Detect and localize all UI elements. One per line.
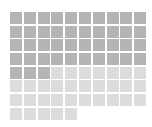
waffle-chart bbox=[10, 12, 146, 120]
waffle-cell-filled bbox=[65, 12, 77, 24]
waffle-cell-remaining bbox=[38, 108, 50, 120]
waffle-cell-remaining bbox=[10, 108, 22, 120]
waffle-cell-remaining bbox=[51, 94, 63, 106]
waffle-cell-filled bbox=[51, 53, 63, 65]
waffle-cell-remaining bbox=[120, 80, 132, 92]
waffle-cell-filled bbox=[10, 12, 22, 24]
waffle-cell-remaining bbox=[134, 94, 146, 106]
waffle-cell-remaining bbox=[10, 80, 22, 92]
waffle-cell-filled bbox=[24, 39, 36, 51]
waffle-cell-filled bbox=[79, 53, 91, 65]
waffle-cell-filled bbox=[134, 12, 146, 24]
waffle-cell-remaining bbox=[65, 80, 77, 92]
waffle-cell-remaining bbox=[10, 94, 22, 106]
waffle-cell-filled bbox=[120, 53, 132, 65]
waffle-cell-remaining bbox=[93, 67, 105, 79]
waffle-cell-filled bbox=[24, 53, 36, 65]
waffle-cell-remaining bbox=[51, 67, 63, 79]
waffle-cell-filled bbox=[134, 26, 146, 38]
waffle-cell-filled bbox=[38, 26, 50, 38]
waffle-cell-remaining bbox=[51, 80, 63, 92]
waffle-cell-remaining bbox=[65, 108, 77, 120]
waffle-cell-remaining bbox=[24, 80, 36, 92]
waffle-cell-filled bbox=[38, 39, 50, 51]
waffle-cell-remaining bbox=[107, 80, 119, 92]
waffle-cell-filled bbox=[65, 39, 77, 51]
waffle-cell-filled bbox=[79, 39, 91, 51]
waffle-cell-remaining bbox=[38, 94, 50, 106]
waffle-cell-remaining bbox=[79, 80, 91, 92]
waffle-cell-filled bbox=[134, 53, 146, 65]
waffle-cell-filled bbox=[120, 26, 132, 38]
waffle-cell-filled bbox=[79, 26, 91, 38]
waffle-cell-remaining bbox=[65, 67, 77, 79]
waffle-cell-filled bbox=[93, 39, 105, 51]
waffle-cell-remaining bbox=[134, 67, 146, 79]
waffle-cell-filled bbox=[10, 67, 22, 79]
waffle-cell-remaining bbox=[24, 94, 36, 106]
waffle-cell-remaining bbox=[120, 94, 132, 106]
waffle-cell-filled bbox=[107, 12, 119, 24]
waffle-cell-filled bbox=[93, 26, 105, 38]
waffle-cell-remaining bbox=[93, 94, 105, 106]
waffle-cell-filled bbox=[134, 39, 146, 51]
waffle-cell-filled bbox=[120, 39, 132, 51]
waffle-cell-filled bbox=[51, 39, 63, 51]
waffle-cell-filled bbox=[24, 67, 36, 79]
waffle-cell-filled bbox=[24, 12, 36, 24]
waffle-cell-filled bbox=[10, 26, 22, 38]
waffle-cell-remaining bbox=[107, 94, 119, 106]
waffle-cell-filled bbox=[93, 53, 105, 65]
waffle-cell-filled bbox=[10, 39, 22, 51]
waffle-cell-filled bbox=[38, 12, 50, 24]
waffle-cell-remaining bbox=[65, 94, 77, 106]
waffle-cell-filled bbox=[51, 26, 63, 38]
waffle-cell-filled bbox=[65, 53, 77, 65]
waffle-cell-filled bbox=[10, 53, 22, 65]
waffle-cell-filled bbox=[93, 12, 105, 24]
waffle-cell-filled bbox=[51, 12, 63, 24]
waffle-cell-remaining bbox=[93, 80, 105, 92]
waffle-cell-filled bbox=[79, 12, 91, 24]
waffle-cell-remaining bbox=[107, 67, 119, 79]
waffle-cell-filled bbox=[120, 12, 132, 24]
waffle-cell-filled bbox=[65, 26, 77, 38]
waffle-cell-filled bbox=[24, 26, 36, 38]
waffle-cell-filled bbox=[107, 39, 119, 51]
waffle-cell-filled bbox=[107, 53, 119, 65]
waffle-cell-remaining bbox=[79, 67, 91, 79]
waffle-cell-remaining bbox=[51, 108, 63, 120]
waffle-cell-filled bbox=[38, 53, 50, 65]
waffle-cell-remaining bbox=[24, 108, 36, 120]
waffle-cell-remaining bbox=[134, 80, 146, 92]
waffle-cell-remaining bbox=[38, 80, 50, 92]
waffle-cell-remaining bbox=[79, 94, 91, 106]
waffle-cell-filled bbox=[107, 26, 119, 38]
waffle-cell-filled bbox=[38, 67, 50, 79]
waffle-cell-remaining bbox=[120, 67, 132, 79]
